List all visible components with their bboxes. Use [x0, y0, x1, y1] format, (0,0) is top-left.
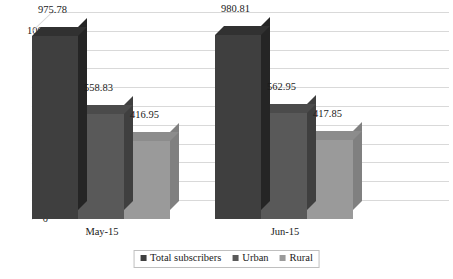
bar-side-face [78, 18, 87, 210]
bar-data-label: 558.83 [84, 83, 113, 94]
bar-chart: 10009008007006005004003002001000 416.955… [0, 0, 453, 279]
legend-label: Rural [290, 253, 313, 264]
gridline [52, 12, 449, 13]
legend-label: Total subscribers [150, 253, 221, 264]
bar-data-label: 975.78 [38, 5, 67, 16]
legend-swatch-icon [232, 255, 238, 261]
legend-item-total-subscribers[interactable]: Total subscribers [140, 253, 221, 264]
legend-swatch-icon [140, 255, 146, 261]
legend-item-rural[interactable]: Rural [280, 253, 313, 264]
bar-data-label: 980.81 [221, 4, 250, 15]
bar-data-label: 562.95 [267, 82, 296, 93]
legend-swatch-icon [280, 255, 286, 261]
legend-label: Urban [242, 253, 268, 264]
bar-top-face [215, 26, 270, 35]
legend-item-urban[interactable]: Urban [232, 253, 268, 264]
bar-front-face [215, 35, 261, 219]
bar-side-face [261, 17, 270, 210]
category-axis-label: Jun-15 [215, 227, 355, 238]
bar-top-face [32, 27, 87, 36]
category-axis-label: May-15 [32, 227, 172, 238]
chart-legend: Total subscribersUrbanRural [133, 250, 320, 268]
bar-data-label: 417.85 [313, 109, 342, 120]
bar-data-label: 416.95 [130, 110, 159, 121]
bar-total-subscribers-jun-15 [215, 35, 261, 219]
bar-front-face [32, 36, 78, 219]
bar-total-subscribers-may-15 [32, 36, 78, 219]
